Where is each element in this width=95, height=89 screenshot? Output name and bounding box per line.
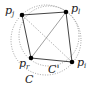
edges-group — [22, 12, 72, 62]
edge-pl-pi — [66, 12, 72, 62]
point-pi — [70, 60, 75, 65]
point-pl — [64, 10, 69, 15]
label-pr: pr — [19, 57, 30, 71]
labels-group: pjplprpiCC' — [5, 2, 86, 86]
point-pj — [20, 13, 25, 18]
edge-pi-pr — [31, 58, 72, 62]
edge-pj-pl — [22, 12, 66, 15]
label-circle-C: C — [25, 73, 34, 86]
label-pj: pj — [5, 4, 15, 18]
edge-pj-pi — [22, 15, 72, 62]
point-pr — [29, 56, 34, 61]
label-pl: pl — [71, 2, 80, 16]
geometry-diagram: pjplprpiCC' — [0, 0, 95, 89]
label-pi: pi — [77, 56, 86, 70]
label-circle-Cprime: C' — [48, 63, 59, 76]
